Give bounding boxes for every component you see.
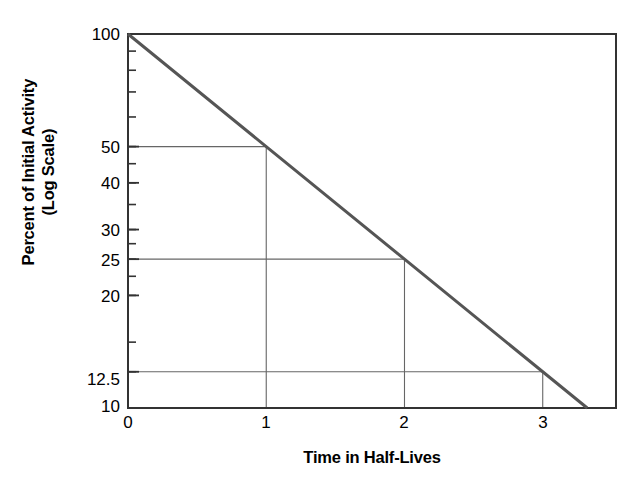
y-axis-title: Percent of Initial Activity (Log Scale) <box>18 22 58 322</box>
axis-box <box>128 34 616 408</box>
y-tick-label-50: 50 <box>58 139 120 156</box>
y-axis-minor-ticks-group <box>128 51 136 372</box>
x-tick-label-0: 0 <box>108 414 148 431</box>
y-axis-title-line-2: (Log Scale) <box>38 22 58 322</box>
y-axis-title-line-1: Percent of Initial Activity <box>18 22 38 322</box>
x-tick-label-3: 3 <box>523 414 563 431</box>
decay-curve <box>128 34 587 408</box>
y-tick-label-25: 25 <box>58 252 120 269</box>
x-axis-title: Time in Half-Lives <box>128 448 616 467</box>
y-tick-label-40: 40 <box>58 175 120 192</box>
decay-curve-group <box>128 34 587 408</box>
y-tick-label-100: 100 <box>58 26 120 43</box>
guide-lines-group <box>128 147 543 408</box>
x-tick-label-1: 1 <box>246 414 286 431</box>
x-tick-label-2: 2 <box>384 414 424 431</box>
y-tick-label-12-5: 12.5 <box>48 371 120 388</box>
y-tick-label-30: 30 <box>58 222 120 239</box>
y-axis-major-ticks-group <box>128 34 139 408</box>
axis-frame-group <box>128 34 616 408</box>
y-tick-label-20: 20 <box>58 288 120 305</box>
decay-chart-figure: Percent of Initial Activity (Log Scale) … <box>0 0 635 480</box>
y-tick-label-10: 10 <box>58 398 120 415</box>
